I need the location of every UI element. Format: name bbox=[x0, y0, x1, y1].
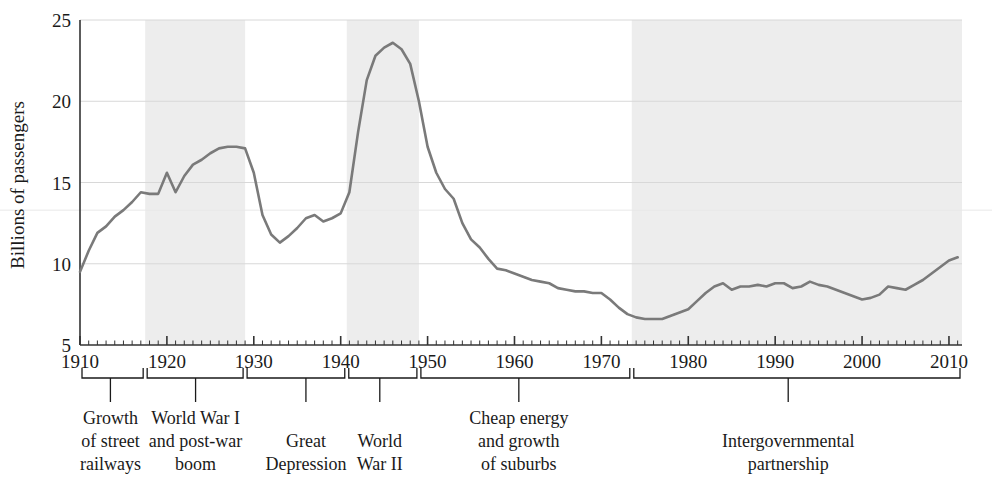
era-label: WorldWar II bbox=[357, 431, 403, 474]
era-annotation-labels: Growthof streetrailwaysWorld War Iand po… bbox=[80, 408, 855, 474]
x-tick-label: 1950 bbox=[409, 351, 447, 372]
x-tick-label: 1930 bbox=[235, 351, 273, 372]
era-label: Intergovernmentalpartnership bbox=[722, 431, 855, 474]
x-tick-label: 2000 bbox=[843, 351, 881, 372]
y-axis-label: Billions of passengers bbox=[7, 101, 28, 269]
era-label: World War Iand post-warboom bbox=[149, 408, 242, 474]
y-tick-label: 15 bbox=[52, 173, 71, 194]
x-tick-label: 1920 bbox=[148, 351, 186, 372]
era-label: Growthof streetrailways bbox=[80, 408, 141, 474]
x-tick-label: 1990 bbox=[756, 351, 794, 372]
x-tick-label: 1940 bbox=[322, 351, 360, 372]
passenger-ridership-line-chart: 510152025 191019201930194019501960197019… bbox=[0, 0, 992, 486]
y-tick-label: 20 bbox=[52, 91, 71, 112]
x-axis-tick-labels: 1910192019301940195019601970198019902000… bbox=[61, 351, 968, 372]
era-brackets bbox=[82, 368, 960, 402]
y-axis-tick-labels: 510152025 bbox=[52, 10, 71, 356]
x-tick-label: 1910 bbox=[61, 351, 99, 372]
x-tick-label: 1960 bbox=[495, 351, 533, 372]
x-tick-label: 2010 bbox=[930, 351, 968, 372]
era-label: Cheap energyand growthof suburbs bbox=[469, 408, 568, 474]
y-tick-label: 10 bbox=[52, 254, 71, 275]
x-tick-label: 1970 bbox=[582, 351, 620, 372]
chart-figure: 510152025 191019201930194019501960197019… bbox=[0, 0, 992, 486]
y-tick-label: 25 bbox=[52, 10, 71, 31]
era-label: GreatDepression bbox=[265, 431, 346, 474]
x-tick-label: 1980 bbox=[669, 351, 707, 372]
